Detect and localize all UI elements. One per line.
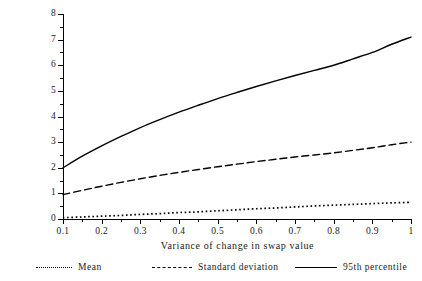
x-tick-label-0.2: 0.2 [82, 226, 122, 236]
series-curves [63, 14, 411, 219]
x-tick-label-0.3: 0.3 [120, 226, 160, 236]
x-tick-label-0.9: 0.9 [352, 226, 392, 236]
series-line-mean [63, 202, 411, 217]
x-tick-1 [411, 219, 412, 224]
legend-swatch-solid-icon [295, 267, 337, 269]
x-tick-minor [160, 219, 161, 222]
y-tick-label-4: 4 [2, 112, 56, 122]
series-line-95th-percentile [63, 37, 411, 168]
x-axis-title: Variance of change in swap value [63, 240, 412, 251]
legend-item-standard-deviation: Standard deviation [152, 259, 279, 275]
x-tick-0.2 [102, 219, 103, 224]
legend-swatch-dotted-icon [36, 267, 72, 269]
x-tick-0.5 [218, 219, 219, 224]
legend-label-standard-deviation: Standard deviation [198, 262, 279, 272]
x-tick-minor [237, 219, 238, 222]
y-tick-label-6: 6 [2, 60, 56, 70]
x-tick-0.7 [295, 219, 296, 224]
chart-figure: Change in net exposure (as % of notional… [0, 0, 422, 281]
x-tick-minor [276, 219, 277, 222]
x-tick-label-1: 1 [391, 226, 422, 236]
plot-area [63, 14, 411, 219]
x-tick-label-0.6: 0.6 [236, 226, 276, 236]
x-tick-minor [121, 219, 122, 222]
x-tick-0.1 [63, 219, 64, 224]
y-tick-label-0: 0 [2, 214, 56, 224]
x-tick-label-0.1: 0.1 [43, 226, 83, 236]
legend-swatch-dashed-icon [152, 267, 192, 269]
x-tick-0.8 [334, 219, 335, 224]
y-tick-label-3: 3 [2, 137, 56, 147]
legend-item-mean: Mean [36, 259, 102, 275]
y-tick-label-5: 5 [2, 86, 56, 96]
x-tick-0.9 [372, 219, 373, 224]
chart-legend: Mean Standard deviation 95th percentile [0, 259, 422, 275]
x-tick-label-0.8: 0.8 [314, 226, 354, 236]
x-tick-minor [392, 219, 393, 222]
y-tick-label-1: 1 [2, 188, 56, 198]
legend-label-95th-percentile: 95th percentile [343, 262, 407, 272]
x-tick-minor [198, 219, 199, 222]
x-tick-minor [82, 219, 83, 222]
x-tick-minor [353, 219, 354, 222]
y-tick-label-8: 8 [2, 9, 56, 19]
y-tick-label-2: 2 [2, 163, 56, 173]
x-tick-label-0.7: 0.7 [275, 226, 315, 236]
x-tick-label-0.5: 0.5 [198, 226, 238, 236]
x-tick-minor [314, 219, 315, 222]
x-tick-0.6 [256, 219, 257, 224]
legend-item-95th-percentile: 95th percentile [295, 259, 407, 275]
y-tick-label-7: 7 [2, 35, 56, 45]
x-tick-label-0.4: 0.4 [159, 226, 199, 236]
series-line-standard-deviation [63, 142, 411, 195]
x-tick-0.4 [179, 219, 180, 224]
legend-label-mean: Mean [78, 262, 102, 272]
x-tick-0.3 [140, 219, 141, 224]
